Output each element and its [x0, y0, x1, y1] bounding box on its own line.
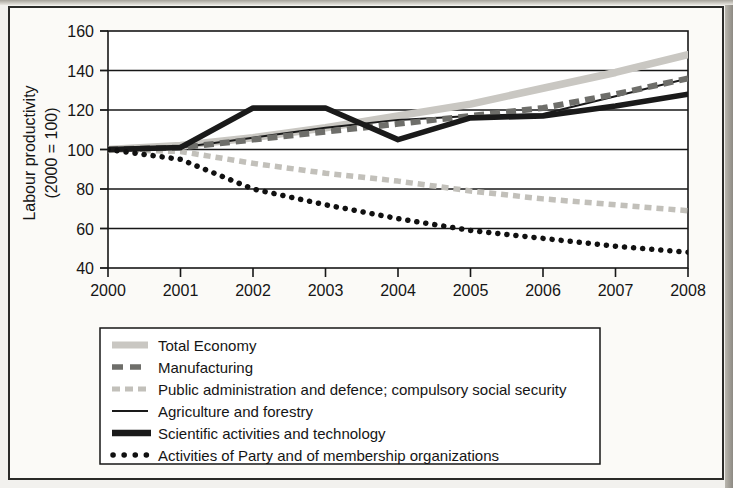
- x-tick-label-2002: 2002: [235, 282, 271, 299]
- scan-top-shadow: [0, 0, 733, 5]
- x-axis-ticks: [108, 268, 688, 277]
- y-tick-label-160: 160: [67, 23, 94, 40]
- legend-label-agriculture-forestry: Agriculture and forestry: [158, 403, 314, 420]
- x-tick-label-2003: 2003: [308, 282, 344, 299]
- x-tick-label-2007: 2007: [598, 282, 634, 299]
- legend-label-party-activities: Activities of Party and of membership or…: [158, 447, 499, 464]
- y-axis-title-line1: Labour productivity: [21, 85, 38, 220]
- y-tick-label-80: 80: [76, 181, 94, 198]
- labour-productivity-line-chart: 160 140 120 100 80 60 40 Labour producti…: [8, 6, 724, 480]
- x-tick-label-2000: 2000: [90, 282, 126, 299]
- y-axis-tick-labels: 160 140 120 100 80 60 40: [67, 23, 94, 277]
- legend-label-public-administration: Public administration and defence; compu…: [158, 381, 567, 398]
- figure-container: 160 140 120 100 80 60 40 Labour producti…: [0, 0, 733, 488]
- y-tick-label-40: 40: [76, 260, 94, 277]
- legend-label-manufacturing: Manufacturing: [158, 359, 253, 376]
- y-axis-title-line2: (2000 = 100): [43, 107, 60, 198]
- legend-label-scientific-activities: Scientific activities and technology: [158, 425, 386, 442]
- x-tick-label-2006: 2006: [525, 282, 561, 299]
- x-axis-tick-labels: 2000 2001 2002 2003 2004 2005 2006 2007 …: [90, 282, 706, 299]
- x-tick-label-2004: 2004: [380, 282, 416, 299]
- legend: Total Economy Manufacturing Public admin…: [100, 328, 600, 464]
- y-axis-ticks: [100, 31, 108, 268]
- y-axis-title: Labour productivity (2000 = 100): [21, 85, 60, 220]
- y-tick-label-140: 140: [67, 63, 94, 80]
- y-tick-label-120: 120: [67, 102, 94, 119]
- x-tick-label-2008: 2008: [670, 282, 706, 299]
- legend-label-total-economy: Total Economy: [158, 337, 257, 354]
- x-tick-label-2005: 2005: [453, 282, 489, 299]
- scan-gutter-shadow: [725, 0, 733, 488]
- y-tick-label-100: 100: [67, 142, 94, 159]
- x-tick-label-2001: 2001: [163, 282, 199, 299]
- y-tick-label-60: 60: [76, 221, 94, 238]
